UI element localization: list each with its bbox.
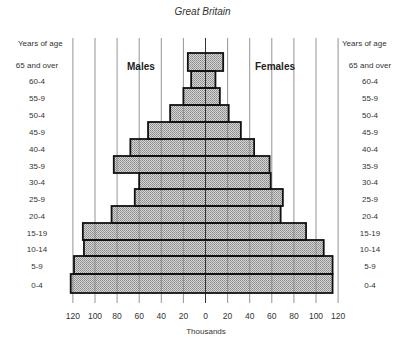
x-tick-label: 100: [83, 311, 107, 321]
x-tick-label: 40: [238, 311, 262, 321]
bar-60-4: [191, 71, 215, 88]
females-label: Females: [255, 61, 295, 72]
bar-20-4: [112, 206, 281, 223]
x-tick-label: 100: [304, 311, 328, 321]
bar-0-4: [71, 274, 333, 293]
bar-30-4: [139, 173, 270, 189]
x-tick-label: 60: [127, 311, 151, 321]
x-tick-label: 80: [282, 311, 306, 321]
x-axis-label: Thousands: [0, 327, 405, 336]
x-tick-label: 20: [171, 311, 195, 321]
bar-50-4: [170, 105, 229, 122]
bar-10-14: [84, 240, 324, 256]
bar-40-4: [130, 139, 254, 156]
x-tick-label: 0: [194, 311, 218, 321]
pyramid-plot: [0, 0, 405, 352]
bar-55-9: [183, 88, 219, 105]
bar-35-9: [114, 156, 270, 173]
bar-15-19: [83, 223, 306, 240]
x-tick-label: 20: [216, 311, 240, 321]
x-tick-label: 80: [105, 311, 129, 321]
x-tick-label: 60: [260, 311, 284, 321]
bar-25-9: [135, 189, 283, 206]
males-label: Males: [127, 61, 155, 72]
x-tick-label: 120: [326, 311, 350, 321]
x-tick-label: 40: [149, 311, 173, 321]
bar-45-9: [148, 122, 241, 139]
x-tick-label: 120: [61, 311, 85, 321]
